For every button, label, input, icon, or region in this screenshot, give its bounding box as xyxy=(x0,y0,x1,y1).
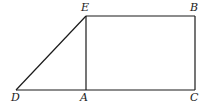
point-label-c: C xyxy=(190,91,199,104)
point-label-b: B xyxy=(189,1,198,14)
point-label-d: D xyxy=(10,91,20,104)
segments xyxy=(16,16,195,90)
geometry-diagram: EBDAC xyxy=(0,0,209,104)
point-label-a: A xyxy=(79,91,88,104)
point-label-e: E xyxy=(80,1,89,14)
segment-de xyxy=(16,16,86,90)
